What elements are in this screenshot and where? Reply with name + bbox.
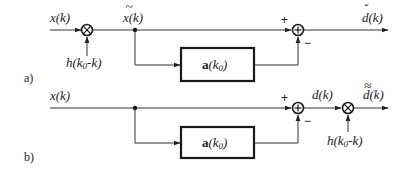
prediction-wire-a	[254, 37, 298, 65]
summer-node-b	[293, 103, 304, 114]
diagram-tag-b: b)	[24, 150, 34, 164]
window-label-a: h(k0-k)	[66, 55, 102, 71]
block-label-a: a(k0)	[202, 57, 227, 73]
check-mark-a: ˇ	[364, 1, 369, 16]
branch-wire-a	[135, 30, 180, 65]
error-label-b: d(k)	[312, 87, 333, 102]
window-label-b: h(k0-k)	[327, 133, 363, 149]
branch-wire-b	[135, 108, 180, 143]
tilde-mark-a: ~	[126, 0, 133, 14]
input-label-a: x(k)	[49, 10, 70, 25]
diagram-tag-a: a)	[24, 71, 33, 85]
double-tilde-mark-b: ≈	[364, 78, 371, 93]
input-label-b: x(k)	[49, 88, 70, 103]
diagram-a: a(k0) + − x(k) x(k) ~ h(k0-k) d(k) ˇ a)	[24, 0, 388, 85]
diagram-b: a(k0) + − x(k) d(k) h(k0-k) d(k) ≈ b)	[24, 78, 388, 164]
multiplier-node-a	[82, 25, 93, 36]
prediction-wire-b	[254, 115, 298, 143]
plus-sign-b: +	[281, 91, 288, 105]
summer-node-a	[293, 25, 304, 36]
multiplier-node-b	[343, 103, 354, 114]
block-diagram-canvas: a(k0) + − x(k) x(k) ~ h(k0-k) d(k) ˇ a) …	[0, 0, 408, 174]
plus-sign-a: +	[281, 13, 288, 27]
minus-sign-b: −	[304, 114, 311, 128]
block-label-b: a(k0)	[202, 135, 227, 151]
minus-sign-a: −	[304, 36, 311, 50]
